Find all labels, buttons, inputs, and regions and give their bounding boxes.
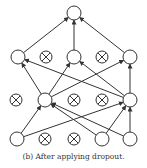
neuron-node (123, 132, 137, 146)
dropped-neuron-icon (10, 94, 22, 106)
dropped-neuron-icon (96, 51, 108, 63)
dropped-neuron-icon (68, 133, 80, 145)
connections (21, 17, 130, 136)
connection-arrow (49, 63, 70, 94)
neuron-node (95, 132, 109, 146)
figure-caption: (b) After applying dropout. (0, 152, 147, 161)
dropped-neuron-icon (68, 94, 80, 106)
neuron-node (123, 50, 137, 64)
neuron-node (11, 50, 25, 64)
dropped-neuron-icon (39, 133, 51, 145)
dropped-neuron-icon (96, 94, 108, 106)
connection-arrow (51, 60, 124, 97)
dropout-network-diagram (0, 0, 147, 150)
neuron-node (67, 50, 81, 64)
neuron-node (123, 93, 137, 107)
connection-arrow (22, 63, 42, 94)
connection-arrow (80, 61, 125, 95)
connection-arrow (51, 103, 123, 136)
neuron-node (67, 6, 81, 20)
neuron-node (38, 93, 52, 107)
dropped-neuron-icon (40, 51, 52, 63)
connection-arrow (80, 17, 125, 52)
neuron-node (10, 132, 24, 146)
connection-arrow (21, 106, 41, 134)
connection-arrow (24, 17, 69, 52)
connection-arrow (51, 104, 96, 135)
